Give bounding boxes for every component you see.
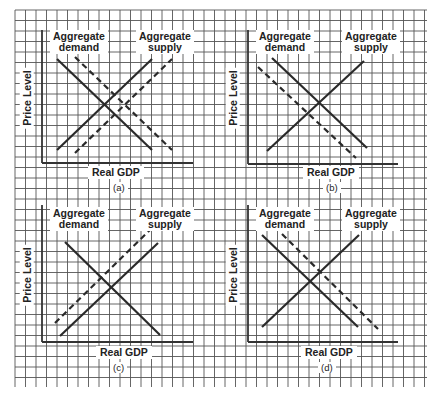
supply-label-line: supply [345, 219, 397, 230]
supply-label: Aggregatesupply [342, 30, 400, 54]
x-axis-label: Real GDP [303, 166, 359, 179]
supply-label-line: supply [139, 42, 191, 53]
supply-label: Aggregatesupply [342, 207, 400, 231]
demand-label: Aggregatedemand [50, 207, 108, 231]
demand-label-line: demand [53, 42, 105, 53]
aggregate-supply-shifted-curve [55, 228, 152, 323]
x-axis-label: Real GDP [96, 346, 152, 359]
axes [42, 30, 398, 342]
supply-label-line: supply [139, 219, 191, 230]
graph-paper-canvas [0, 0, 436, 401]
demand-label: Aggregatedemand [256, 207, 314, 231]
ad-as-diagram-figure: Aggregatedemand Aggregatesupply Real GDP… [0, 0, 436, 401]
aggregate-supply-curve [267, 61, 364, 151]
x-axis-label: Real GDP [301, 346, 357, 359]
grid-lines [15, 10, 427, 387]
demand-label-line: demand [259, 219, 311, 230]
y-axis-label: Price Level [226, 244, 240, 305]
demand-label-line: demand [53, 219, 105, 230]
panel-caption: (b) [323, 182, 341, 193]
x-axis-label: Real GDP [88, 166, 144, 179]
panel-caption: (d) [318, 362, 336, 373]
y-axis-label: Price Level [226, 67, 240, 128]
aggregate-supply-curve [60, 243, 158, 336]
demand-label: Aggregatedemand [50, 30, 108, 54]
panel-caption: (c) [110, 362, 127, 373]
demand-label: Aggregatedemand [256, 30, 314, 54]
supply-label-line: supply [345, 42, 397, 53]
demand-label-line: demand [259, 42, 311, 53]
supply-label: Aggregatesupply [136, 30, 194, 54]
y-axis-label: Price Level [20, 67, 34, 128]
panel-caption: (a) [110, 182, 128, 193]
supply-label: Aggregatesupply [136, 207, 194, 231]
y-axis-label: Price Level [20, 244, 34, 305]
